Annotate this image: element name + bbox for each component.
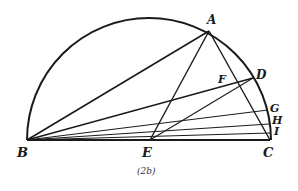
label-D: D <box>255 68 267 82</box>
label-I: I <box>273 125 280 138</box>
label-F: F <box>217 73 227 86</box>
geometry-figure: A B C D E F G H I (2b) <box>0 0 298 191</box>
semicircle-arc <box>27 18 271 140</box>
label-E: E <box>141 145 153 160</box>
figure-caption: (2b) <box>137 166 156 176</box>
segment-BA <box>27 31 209 140</box>
segment-BD <box>27 78 253 140</box>
label-B: B <box>16 145 28 160</box>
label-C: C <box>263 145 274 160</box>
label-A: A <box>206 13 216 27</box>
semicircle-diagram: A B C D E F G H I (2b) <box>0 0 298 191</box>
segment-BI <box>27 133 270 140</box>
segment-BH <box>27 124 269 140</box>
segment-BG <box>27 110 268 140</box>
